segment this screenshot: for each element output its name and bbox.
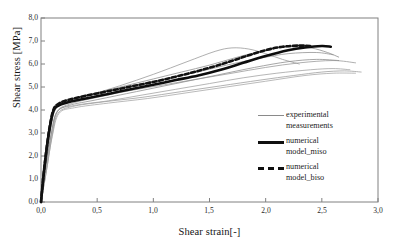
legend-label: experimental measurements xyxy=(286,110,333,131)
chart-legend: experimental measurements numerical mode… xyxy=(258,110,376,188)
chart-figure: Shear stress [MPa] 8,0 7,0 6,0 5,0 4,0 3… xyxy=(0,0,418,249)
legend-line-icon-thin-solid xyxy=(258,110,284,122)
legend-line-icon-thick-solid xyxy=(258,136,284,148)
legend-label: numerical model_miso xyxy=(286,136,326,157)
legend-line-icon-thick-dashed xyxy=(258,162,284,174)
legend-item-model-miso: numerical model_miso xyxy=(258,136,376,157)
legend-item-model-biso: numerical model_biso xyxy=(258,162,376,183)
legend-label: numerical model_biso xyxy=(286,162,324,183)
legend-item-experimental: experimental measurements xyxy=(258,110,376,131)
